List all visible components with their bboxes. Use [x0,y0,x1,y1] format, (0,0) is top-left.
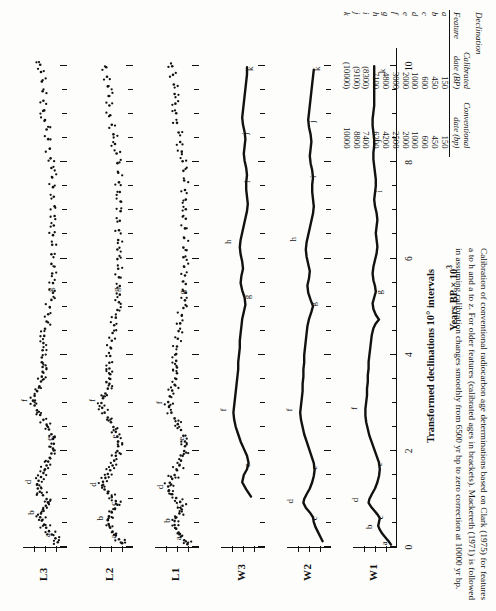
feature-label-g: g [111,287,121,292]
feature-label-b: b [95,515,105,520]
feature-label-g: g [177,289,187,294]
panel-label-w3: W3 [235,563,247,580]
feature-label-g: g [45,287,55,292]
cell-feature: b [429,10,439,48]
feature-label-f: f [154,401,164,404]
feature-label-d: d [155,484,165,489]
series-l1 [155,48,199,547]
feature-label-a: a [379,541,389,545]
cell-feature: e [400,10,410,48]
feature-label-a: a [42,532,52,536]
cell-conventional: 7400 [361,98,371,157]
table-row: d10001000 [410,10,420,157]
cell-conventional: 10000 [341,98,351,157]
feature-label-e: e [44,436,54,440]
feature-label-b: b [26,510,36,515]
table-caption: Declination [471,10,484,157]
feature-label-f: f [218,408,228,411]
cell-feature: j [351,10,361,48]
panel-label-l1: L1 [169,567,181,581]
feature-label-a: a [108,534,118,538]
table-row: c600600 [419,10,429,157]
feature-label-f: f [19,398,29,401]
series-l3 [23,48,67,547]
cell-calibrated: 150 [439,48,449,98]
feature-label-f: f [284,408,294,411]
cell-calibrated: (9100) [351,48,361,98]
feature-label-i: i [242,180,252,183]
feature-label-b: b [364,524,374,529]
cell-conventional: 2000 [400,98,410,157]
table-row: b450450 [429,10,439,157]
panel-label-l2: L2 [103,567,115,581]
col-header-feature: Feature [449,10,471,48]
feature-label-c: c [42,499,52,503]
cell-calibrated: 2000 [400,48,410,98]
col-header-conventional: Conventional date (bp) [449,98,471,157]
cell-feature: d [410,10,420,48]
cell-feature: k [341,10,351,48]
figure-plot-area: 0246810W1abcdefgijkW2cdefghijkW3efghijkL… [0,0,330,611]
feature-label-d: d [285,499,295,504]
cell-calibrated: (8300) [361,48,371,98]
cell-calibrated: (10000) [341,48,351,98]
feature-label-g: g [374,289,384,294]
cell-feature: h [370,10,380,48]
feature-label-b: b [162,518,172,523]
calibration-table: Declination Feature Calibrated date (BP)… [341,10,484,157]
feature-label-a: a [173,536,183,540]
cell-conventional: 450 [429,98,439,157]
cell-feature: c [419,10,429,48]
feature-label-c: c [309,516,319,520]
cell-conventional: 1000 [410,98,420,157]
cell-conventional: 600 [419,98,429,157]
feature-label-c: c [173,504,183,508]
cell-calibrated: 7100 [370,48,380,98]
cell-conventional: 2500 [390,98,400,157]
cell-calibrated: 450 [429,48,439,98]
cell-feature: i [361,10,371,48]
feature-label-g: g [308,301,318,306]
cell-feature: f [390,10,400,48]
panel-label-w1: W1 [367,563,379,580]
series-l2 [89,48,133,547]
table-row: k(10000)10000 [341,10,351,157]
panel-l2: L2abcdefg [89,48,133,548]
panel-w3: W3efghijk [221,48,265,548]
cell-calibrated: 3000 [390,48,400,98]
feature-label-h: h [223,239,233,244]
table-row: g48004200 [380,10,390,157]
table-row: j(9100)8800 [351,10,361,157]
cell-conventional: 150 [439,98,449,157]
cell-feature: a [439,10,449,48]
panel-stack: 0246810W1abcdefgijkW2cdefghijkW3efghijkL… [15,26,315,586]
feature-label-h: h [288,237,298,242]
cell-calibrated: 600 [419,48,429,98]
feature-label-f: f [349,407,359,410]
calibration-table-wrapper: Declination Feature Calibrated date (BP)… [316,10,484,242]
table-row: h71006200 [370,10,380,157]
cell-conventional: 4200 [380,98,390,157]
table-row: e20002000 [400,10,410,157]
feature-label-f: f [87,398,97,401]
feature-label-c: c [108,501,118,505]
cell-calibrated: 1000 [410,48,420,98]
cell-conventional: 8800 [351,98,361,157]
feature-label-d: d [23,479,33,484]
feature-label-e: e [242,463,252,467]
feature-label-k: k [245,66,255,71]
cell-feature: g [380,10,390,48]
feature-label-j: j [240,132,250,135]
feature-label-c: c [375,515,385,519]
table-row: f30002500 [390,10,400,157]
table-body: a150150b450450c600600d10001000e20002000f… [341,10,449,157]
cell-conventional: 6200 [370,98,380,157]
feature-label-d: d [88,482,98,487]
table-header-row: Feature Calibrated date (BP) Conventiona… [449,10,471,157]
panel-l3: L3abcdefg [23,48,67,548]
table-row: i(8300)7400 [361,10,371,157]
panel-label-w2: W2 [301,563,313,580]
figure-page: 0246810W1abcdefgijkW2cdefghijkW3efghijkL… [0,0,496,611]
feature-label-e: e [374,462,384,466]
feature-label-e: e [309,465,319,469]
